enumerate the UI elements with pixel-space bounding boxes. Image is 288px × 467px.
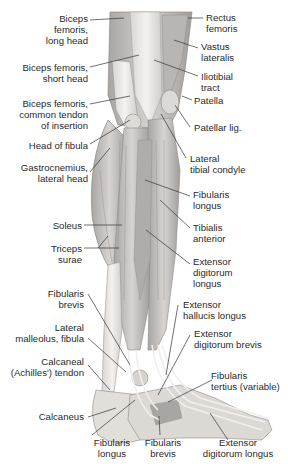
label-fibularis-brevis-foot: Fibularis brevis [138,437,188,459]
label-tibialis-anterior: Tibialis anterior [193,222,226,244]
label-extensor-digitorum-longus-foot: Extensor digitorum longus [196,437,280,459]
label-triceps-surae: Triceps surae [51,243,82,265]
label-fibularis-brevis: Fibularis brevis [48,288,84,310]
label-fibularis-longus: Fibularis longus [193,189,229,211]
fibula-head [125,114,141,130]
label-calcaneus: Calcaneus [39,411,84,422]
label-calcaneal-tendon: Calcaneal (Achilles') tendon [11,356,84,378]
label-extensor-hallucis-longus: Extensor hallucis longus [183,299,246,321]
label-patella: Patella [194,95,223,106]
label-biceps-femoris-short-head: Biceps femoris, short head [22,62,88,84]
label-head-of-fibula: Head of fibula [29,140,88,151]
label-fibularis-longus-foot: Fibularis longus [82,437,142,459]
label-fibularis-tertius: Fibularis tertius (variable) [211,370,280,392]
label-soleus: Soleus [53,220,82,231]
label-rectus-femoris: Rectus femoris [206,12,237,34]
label-biceps-femoris-long-head: Biceps femoris, long head [46,13,88,46]
label-lateral-malleolus: Lateral malleolus, fibula [15,322,84,344]
label-gastrocnemius-lateral-head: Gastrocnemius, lateral head [21,162,88,184]
label-iliotibial-tract: Iliotibial tract [201,71,233,93]
label-vastus-lateralis: Vastus lateralis [201,41,234,63]
label-biceps-femoris-common-tendon: Biceps femoris, common tendon of inserti… [19,98,88,131]
patella [161,90,179,114]
label-lateral-tibial-condyle: Lateral tibial condyle [190,153,245,175]
achilles [102,262,122,392]
label-patellar-ligament: Patellar lig. [194,122,241,133]
label-extensor-digitorum-longus: Extensor digitorum longus [193,256,232,289]
label-extensor-digitorum-brevis: Extensor digitorum brevis [194,328,262,350]
